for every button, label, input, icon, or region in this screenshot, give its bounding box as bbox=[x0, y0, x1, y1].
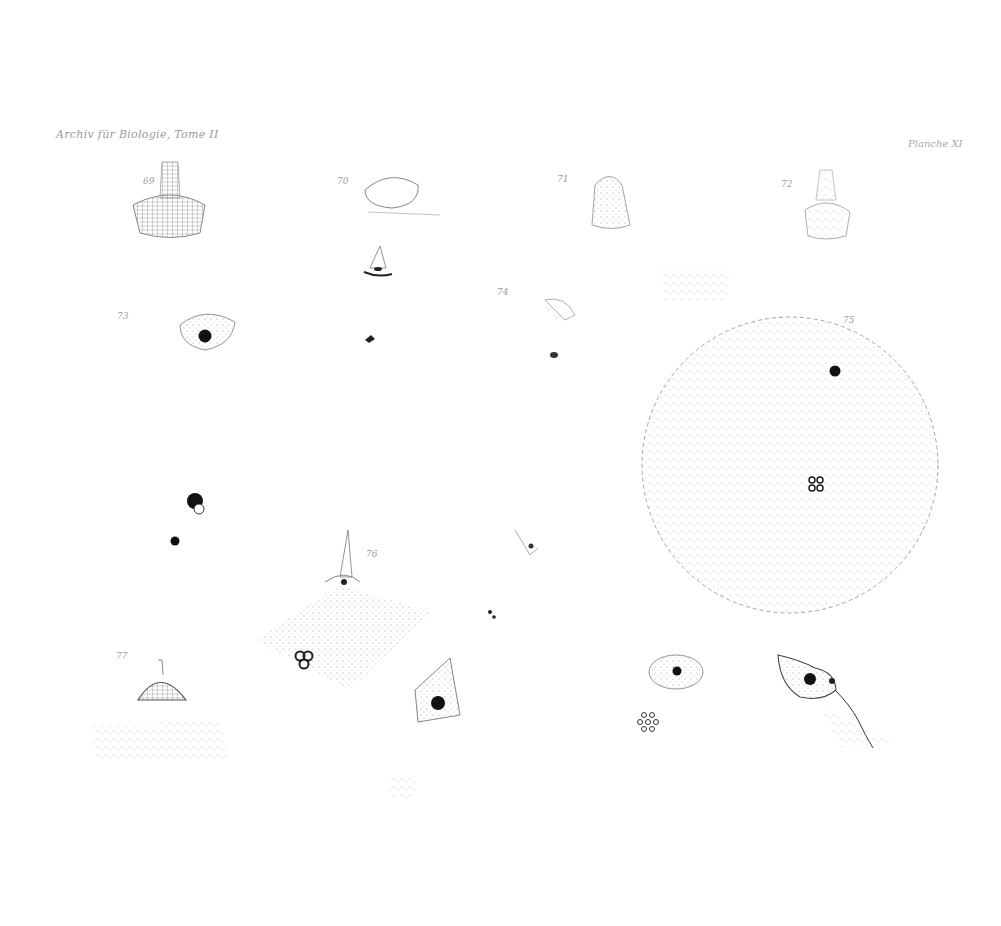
figure-69-drawing bbox=[133, 162, 205, 238]
figure-72-drawing bbox=[660, 170, 850, 300]
figure-77-drawing bbox=[90, 660, 230, 760]
figure-70-drawing bbox=[364, 178, 440, 343]
figure-76-drawing bbox=[255, 530, 430, 690]
figure-75-drawing bbox=[642, 317, 938, 613]
figure-71-drawing bbox=[592, 177, 630, 229]
figure-oval-cell-drawing bbox=[638, 655, 704, 732]
figure-triangle-cell-drawing bbox=[388, 658, 460, 800]
figure-73-drawing bbox=[171, 314, 236, 545]
figure-flagellate-drawing bbox=[778, 655, 900, 748]
illustration-plate: Archiv für Biologie, Tome II Planche XI … bbox=[0, 0, 1001, 926]
plate-drawings bbox=[0, 0, 1001, 926]
figure-74-drawing bbox=[488, 299, 575, 619]
